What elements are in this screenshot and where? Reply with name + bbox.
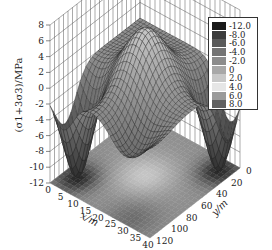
svg-text:-4: -4 bbox=[35, 115, 44, 125]
svg-text:5: 5 bbox=[58, 192, 64, 202]
svg-text:20: 20 bbox=[231, 178, 243, 188]
legend-swatch bbox=[212, 39, 226, 47]
legend-label: -2.0 bbox=[229, 57, 245, 65]
legend-label: 2.0 bbox=[229, 74, 243, 82]
svg-text:30: 30 bbox=[117, 226, 129, 236]
svg-text:80: 80 bbox=[186, 213, 198, 223]
svg-text:120: 120 bbox=[156, 236, 173, 246]
legend-label: -4.0 bbox=[229, 48, 245, 56]
svg-text:25: 25 bbox=[105, 219, 117, 229]
svg-text:35: 35 bbox=[130, 233, 142, 243]
svg-text:4: 4 bbox=[38, 52, 44, 62]
svg-text:2: 2 bbox=[38, 67, 44, 77]
legend-swatch bbox=[212, 74, 226, 82]
legend-label: 8.0 bbox=[229, 100, 243, 108]
legend-swatch bbox=[212, 83, 226, 91]
color-legend: -12.0-8.0-6.0-4.0-2.002.04.06.08.0 bbox=[208, 17, 258, 110]
z-axis-ticks: 86420-2-4-6-8-10-12 bbox=[30, 20, 51, 188]
svg-text:-6: -6 bbox=[35, 131, 44, 141]
svg-text:8: 8 bbox=[38, 20, 44, 30]
svg-text:100: 100 bbox=[171, 224, 188, 234]
svg-text:0: 0 bbox=[38, 83, 44, 93]
svg-text:-8: -8 bbox=[35, 146, 44, 156]
legend-swatch bbox=[212, 57, 226, 65]
svg-text:40: 40 bbox=[142, 240, 154, 250]
legend-swatch bbox=[212, 66, 226, 74]
z-axis-label: (σ1+3σ3)/MPa bbox=[13, 58, 24, 133]
svg-text:6: 6 bbox=[38, 36, 44, 46]
legend-label: 4.0 bbox=[229, 83, 243, 91]
legend-swatch bbox=[212, 48, 226, 56]
legend-label: -12.0 bbox=[229, 22, 251, 30]
legend-swatch bbox=[212, 100, 226, 108]
svg-text:-10: -10 bbox=[30, 162, 45, 172]
svg-text:-2: -2 bbox=[35, 99, 44, 109]
svg-text:-12: -12 bbox=[30, 178, 45, 188]
svg-text:10: 10 bbox=[67, 199, 79, 209]
legend-swatch bbox=[212, 92, 226, 100]
legend-swatch bbox=[212, 31, 226, 39]
legend-swatch bbox=[212, 22, 226, 30]
svg-text:0: 0 bbox=[246, 166, 252, 176]
svg-text:0: 0 bbox=[45, 185, 51, 195]
